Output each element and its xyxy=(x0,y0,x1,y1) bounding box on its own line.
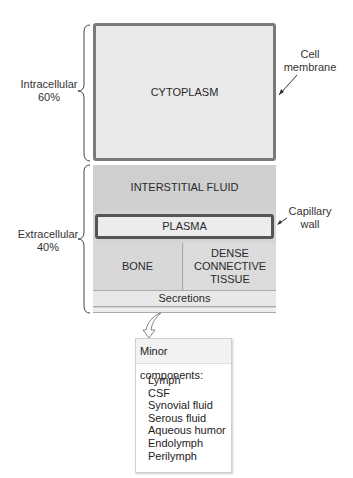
cell-membrane-text-2: membrane xyxy=(280,61,340,74)
list-item: CSF xyxy=(148,387,231,400)
capillary-text-1: Capillary xyxy=(276,205,344,218)
cytoplasm-block: CYTOPLASM xyxy=(93,23,276,161)
minor-components-strip xyxy=(93,308,276,313)
interstitial-block: INTERSTITIAL FLUID xyxy=(93,165,276,210)
secretions-block: Secretions xyxy=(93,290,276,307)
bone-label: BONE xyxy=(122,260,153,273)
list-item: Serous fluid xyxy=(148,412,231,425)
intracellular-percent: 60% xyxy=(14,91,84,104)
extracellular-text: Extracellular xyxy=(12,228,84,241)
capillary-wall-label: Capillary wall xyxy=(276,205,344,231)
list-item: Endolymph xyxy=(148,437,231,450)
dense-connective-label: DENSE CONNECTIVE TISSUE xyxy=(194,247,266,286)
dense-text-2: CONNECTIVE xyxy=(194,260,266,273)
intracellular-text: Intracellular xyxy=(14,78,84,91)
cell-membrane-text-1: Cell xyxy=(280,48,340,61)
dense-text-1: DENSE xyxy=(194,247,266,260)
minor-components-box: Minor components: Lymph CSF Synovial flu… xyxy=(135,338,232,473)
capillary-text-2: wall xyxy=(276,218,344,231)
cytoplasm-label: CYTOPLASM xyxy=(151,86,219,99)
cell-membrane-label: Cell membrane xyxy=(280,48,340,74)
dense-text-3: TISSUE xyxy=(194,273,266,286)
dense-connective-block: DENSE CONNECTIVE TISSUE xyxy=(184,243,276,290)
bone-block: BONE xyxy=(93,243,183,290)
minor-components-arrow-icon xyxy=(143,312,162,338)
interstitial-label: INTERSTITIAL FLUID xyxy=(131,181,239,194)
secretions-label: Secretions xyxy=(159,292,211,305)
extracellular-percent: 40% xyxy=(12,241,84,254)
plasma-block: PLASMA xyxy=(95,214,274,239)
list-item: Perilymph xyxy=(148,450,231,463)
list-item: Aqueous humor xyxy=(148,424,231,437)
minor-components-title: Minor components: xyxy=(136,339,231,364)
plasma-label: PLASMA xyxy=(162,220,207,233)
list-item: Synovial fluid xyxy=(148,399,231,412)
extracellular-label: Extracellular 40% xyxy=(12,228,84,254)
intracellular-label: Intracellular 60% xyxy=(14,78,84,104)
